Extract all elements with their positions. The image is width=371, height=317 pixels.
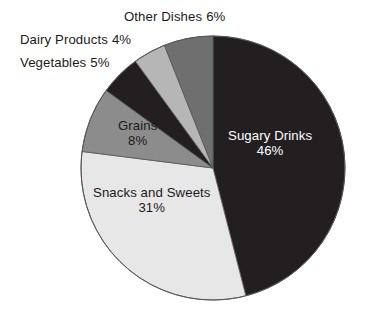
slice-label-sugary-drinks-percent: 46% <box>228 143 312 158</box>
slice-label-grains: Grains 8% <box>118 118 157 149</box>
slice-label-dairy-products-name: Dairy Products <box>20 32 108 47</box>
pie-chart-svg <box>0 0 371 317</box>
slice-label-snacks-and-sweets-name: Snacks and Sweets <box>93 185 211 200</box>
slice-label-other-dishes-name: Other Dishes <box>124 9 202 24</box>
slice-label-grains-name: Grains <box>118 118 157 133</box>
slice-label-grains-percent: 8% <box>118 133 157 148</box>
slice-label-sugary-drinks: Sugary Drinks 46% <box>228 128 312 159</box>
slice-label-snacks-and-sweets: Snacks and Sweets 31% <box>93 185 211 216</box>
slice-label-dairy-products-percent: 4% <box>112 32 131 47</box>
pie-slice-group <box>81 36 345 300</box>
slice-label-snacks-and-sweets-percent: 31% <box>93 200 211 215</box>
slice-label-other-dishes-percent: 6% <box>206 9 225 24</box>
slice-label-vegetables: Vegetables5% <box>20 56 110 70</box>
pie-chart-figure: Other Dishes6% Dairy Products4% Vegetabl… <box>0 0 371 317</box>
slice-label-other-dishes: Other Dishes6% <box>124 10 225 24</box>
slice-label-dairy-products: Dairy Products4% <box>20 33 131 47</box>
slice-label-sugary-drinks-name: Sugary Drinks <box>228 128 312 143</box>
slice-label-vegetables-name: Vegetables <box>20 55 86 70</box>
slice-label-vegetables-percent: 5% <box>90 55 109 70</box>
